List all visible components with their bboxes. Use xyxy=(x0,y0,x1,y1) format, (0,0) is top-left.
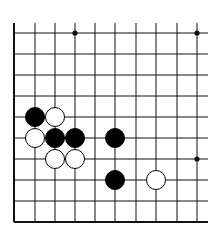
star-point-icon xyxy=(194,30,199,35)
go-board[interactable] xyxy=(0,0,224,238)
star-point-icon xyxy=(72,30,77,35)
white-stone xyxy=(26,129,45,148)
white-stone xyxy=(46,108,65,127)
white-stone xyxy=(66,150,85,169)
black-stone xyxy=(66,129,85,148)
white-stone xyxy=(46,150,65,169)
star-point-icon xyxy=(194,156,199,161)
white-stone xyxy=(147,171,166,190)
black-stone xyxy=(46,129,65,148)
black-stone xyxy=(106,171,125,190)
black-stone xyxy=(106,129,125,148)
black-stone xyxy=(26,108,45,127)
